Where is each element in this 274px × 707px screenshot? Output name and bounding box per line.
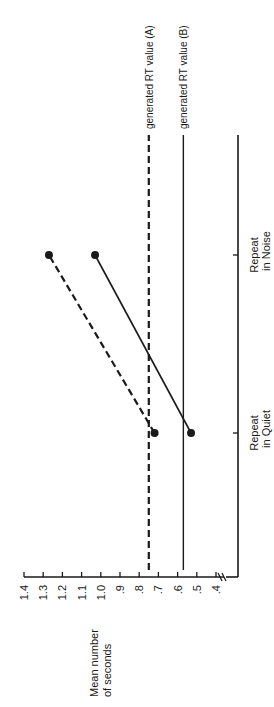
y-tick-label: 1.4: [18, 585, 30, 600]
reference-line-label: generated RT value (A): [144, 25, 155, 129]
y-tick-label: .8: [133, 585, 145, 594]
y-tick-label: .5: [191, 585, 203, 594]
y-tick-label: .4: [210, 585, 222, 594]
y-tick-label: .6: [172, 585, 184, 594]
x-category-label: Repeat: [248, 237, 260, 272]
data-point-marker: [187, 429, 195, 437]
series-line: [49, 255, 155, 433]
y-tick-label: 1.3: [37, 585, 49, 600]
line-chart: 1.41.31.21.11.0.9.8.7.6.5.4 Repeatin Qui…: [0, 0, 274, 707]
y-tick-label: .9: [114, 585, 126, 594]
data-point-marker: [91, 251, 99, 259]
x-axis: Repeatin QuietRepeatin Noise: [233, 135, 272, 577]
chart-stage: 1.41.31.21.11.0.9.8.7.6.5.4 Repeatin Qui…: [0, 0, 274, 707]
y-tick-label: 1.2: [56, 585, 68, 600]
reference-line-label: generated RT value (B): [178, 25, 189, 129]
y-axis: 1.41.31.21.11.0.9.8.7.6.5.4: [18, 572, 238, 600]
y-tick-label: 1.1: [76, 585, 88, 600]
data-point-marker: [45, 251, 53, 259]
reference-lines: generated RT value (A)generated RT value…: [144, 25, 190, 570]
y-axis-title: of seconds: [101, 643, 113, 697]
axis-labels: Mean numberof seconds: [88, 629, 113, 697]
series-line: [95, 255, 191, 433]
y-tick-label: 1.0: [95, 585, 107, 600]
x-category-label: Repeat: [248, 415, 260, 450]
data-series: [45, 251, 195, 437]
y-axis-title: Mean number: [88, 629, 100, 697]
x-category-label: in Noise: [260, 231, 272, 271]
y-tick-label: .7: [152, 585, 164, 594]
data-point-marker: [151, 429, 159, 437]
x-category-label: in Quiet: [260, 410, 272, 448]
